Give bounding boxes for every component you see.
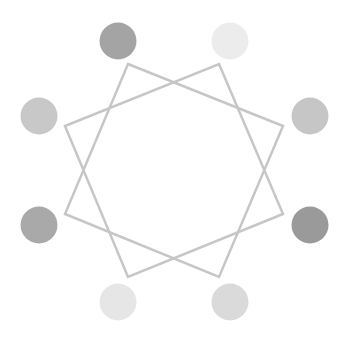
circle-top-left bbox=[100, 23, 137, 60]
background bbox=[0, 0, 351, 344]
circle-top-right bbox=[212, 23, 249, 60]
circle-right-lower bbox=[292, 207, 329, 244]
circle-bottom-left bbox=[100, 284, 137, 321]
circle-left-upper bbox=[21, 98, 58, 135]
circle-right-upper bbox=[292, 98, 329, 135]
octagram-diagram bbox=[0, 0, 351, 344]
circle-left-lower bbox=[21, 207, 58, 244]
circle-bottom-right bbox=[212, 284, 249, 321]
